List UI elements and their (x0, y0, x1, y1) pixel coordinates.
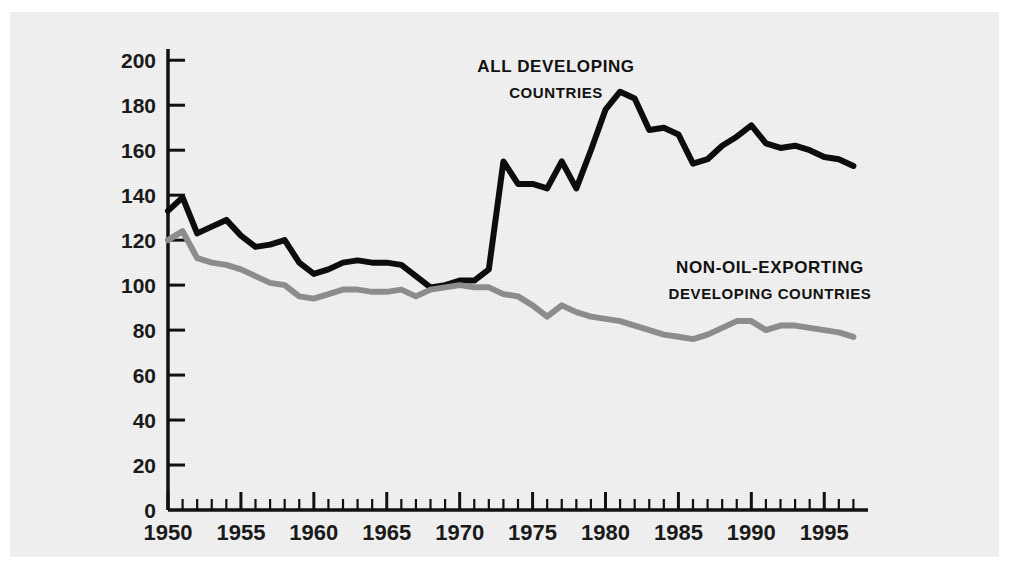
x-axis-tick-label: 1975 (508, 520, 557, 545)
y-axis-tick-label: 200 (121, 49, 156, 72)
series-annotations: ALL DEVELOPINGCOUNTRIESNON-OIL-EXPORTING… (477, 57, 871, 302)
x-axis-tick-label: 1985 (654, 520, 703, 545)
y-axis-tick-label: 100 (121, 274, 156, 297)
line-chart: 020406080100120140160180200 195019551960… (10, 12, 999, 557)
series-annotation-label: ALL DEVELOPING (477, 57, 634, 76)
series-annotation-label: DEVELOPING COUNTRIES (669, 285, 872, 302)
x-axis-tick-label: 1970 (435, 520, 484, 545)
y-axis-tick-label: 60 (133, 364, 156, 387)
y-axis-tick-label: 20 (133, 454, 156, 477)
y-axis-tick-label: 180 (121, 94, 156, 117)
x-axis-tick-label: 1965 (362, 520, 411, 545)
series-annotation-label: NON-OIL-EXPORTING (676, 258, 864, 277)
y-axis-tick-label: 0 (144, 499, 156, 522)
x-axis-tick-label: 1980 (581, 520, 630, 545)
y-axis-tick-label: 160 (121, 139, 156, 162)
y-axis-tick-label: 140 (121, 184, 156, 207)
figure-container: 020406080100120140160180200 195019551960… (0, 0, 1009, 579)
x-axis: 1950195519601965197019751980198519901995 (144, 492, 868, 545)
chart-panel: 020406080100120140160180200 195019551960… (10, 12, 999, 557)
y-axis-tick-label: 80 (133, 319, 156, 342)
x-axis-tick-label: 1955 (216, 520, 265, 545)
x-axis-tick-label: 1995 (800, 520, 849, 545)
y-axis: 020406080100120140160180200 (121, 49, 185, 522)
x-axis-tick-label: 1960 (289, 520, 338, 545)
y-axis-tick-label: 120 (121, 229, 156, 252)
y-axis-tick-label: 40 (133, 409, 156, 432)
x-axis-tick-label: 1990 (727, 520, 776, 545)
x-axis-tick-label: 1950 (144, 520, 193, 545)
series-annotation-label: COUNTRIES (509, 84, 603, 101)
